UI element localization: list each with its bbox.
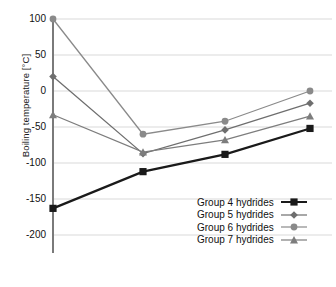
legend-item-group4[interactable]: Group 4 hydrides [197, 196, 333, 209]
legend-label-group5: Group 5 hydrides [197, 209, 274, 220]
series-group-5-hydrides [49, 73, 314, 158]
legend-marker-diamond-icon [280, 209, 308, 221]
legend-item-group7[interactable]: Group 7 hydrides [197, 234, 333, 247]
series-group-6-hydrides [50, 16, 314, 138]
legend-marker-triangle-icon [280, 234, 308, 246]
legend-label-group6: Group 6 hydrides [197, 222, 274, 233]
legend-marker-circle-icon [280, 221, 308, 233]
data-series-layer [49, 16, 314, 212]
legend-label-group7: Group 7 hydrides [197, 234, 274, 245]
legend-item-group5[interactable]: Group 5 hydrides [197, 209, 333, 222]
legend-label-group4: Group 4 hydrides [197, 197, 274, 208]
chart-container: Boiling temperature [°C] 100 50 0 -50 -1… [0, 0, 336, 287]
legend-marker-square-icon [280, 196, 308, 208]
legend: Group 4 hydrides Group 5 hydrides Group … [197, 196, 333, 246]
legend-item-group6[interactable]: Group 6 hydrides [197, 221, 333, 234]
series-group-7-hydrides [49, 111, 314, 156]
